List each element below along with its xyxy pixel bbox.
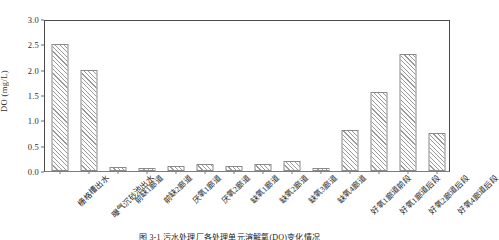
bar-slot: [248, 21, 277, 171]
x-tick-label: 栅格槽出水: [76, 174, 110, 208]
bar[interactable]: [370, 92, 387, 171]
figure-caption: 图 3-1 污水处理厂各处理单元溶解氧(DO)变化情况: [0, 231, 459, 240]
bar-group: [45, 21, 449, 171]
bar[interactable]: [51, 44, 68, 171]
bar-slot: [306, 21, 335, 171]
y-tick-label: 3.0: [28, 16, 39, 25]
x-tick-label: 缺氧3廊道: [307, 174, 338, 205]
x-axis-label-group: 栅格槽出水曝气沉砂池出水前缺1廊道前缺2廊道厌氧1廊道厌氧2廊道缺氧1廊道缺氧2…: [44, 174, 450, 228]
bar-slot: [190, 21, 219, 171]
bar-slot: [364, 21, 393, 171]
y-tick-label: 0.0: [28, 168, 39, 177]
bar[interactable]: [341, 130, 358, 171]
plot-area: [44, 20, 450, 172]
bar-slot: [74, 21, 103, 171]
bar-slot: [45, 21, 74, 171]
x-tick-label: 缺氧2廊道: [278, 174, 309, 205]
x-tick-label: 厌氧2廊道: [220, 174, 251, 205]
bar-slot: [422, 21, 451, 171]
bar-slot: [335, 21, 364, 171]
x-tick-label: 前缺2廊道: [162, 174, 193, 205]
bar-slot: [393, 21, 422, 171]
y-tick-label: 2.0: [28, 66, 39, 75]
bar[interactable]: [196, 164, 213, 171]
y-axis: DO (mg/L) 0.00.51.01.52.02.53.0: [0, 20, 44, 172]
y-axis-title: DO (mg/L): [0, 70, 9, 112]
bar[interactable]: [283, 161, 300, 171]
bar[interactable]: [428, 133, 445, 171]
x-tick-label: 厌氧1廊道: [191, 174, 222, 205]
x-tick-label: 缺氧4廊道: [336, 174, 367, 205]
y-tick-label: 1.0: [28, 117, 39, 126]
bar-slot: [161, 21, 190, 171]
x-tick-label: 缺氧1廊道: [249, 174, 280, 205]
bar-slot: [219, 21, 248, 171]
bar-slot: [277, 21, 306, 171]
y-tick-label: 0.5: [28, 142, 39, 151]
bar[interactable]: [399, 54, 416, 171]
bar-slot: [103, 21, 132, 171]
bar[interactable]: [254, 164, 271, 171]
y-tick-label: 2.5: [28, 41, 39, 50]
x-tick-label: 曝气沉砂池出水: [110, 174, 156, 220]
bar-slot: [132, 21, 161, 171]
bar[interactable]: [80, 70, 97, 171]
y-tick-label: 1.5: [28, 92, 39, 101]
